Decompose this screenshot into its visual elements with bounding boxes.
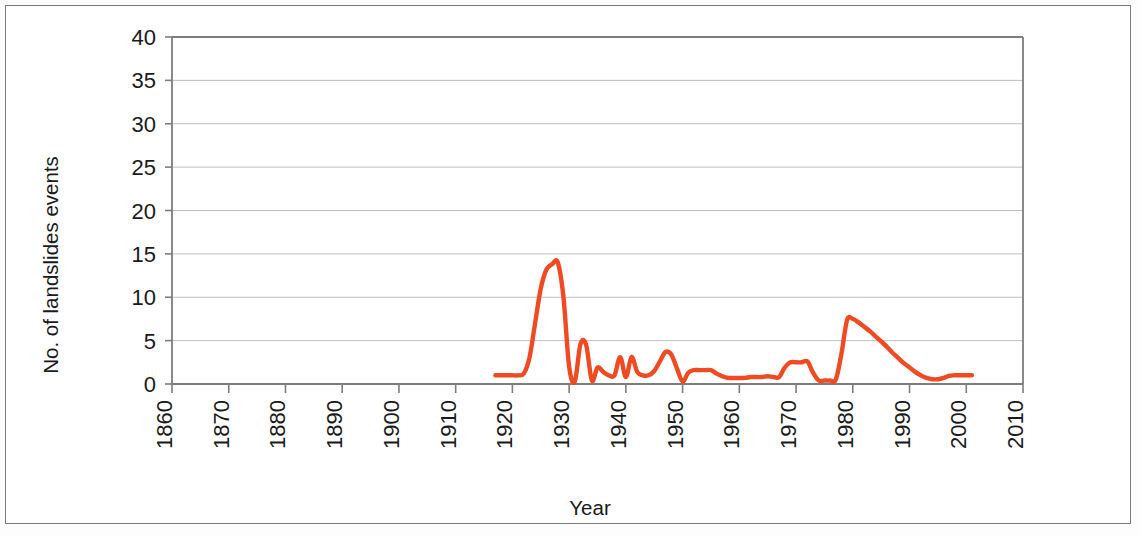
x-tick-label-1890: 1890	[322, 400, 347, 449]
x-axis-title: Year	[569, 496, 611, 519]
x-tick-label-1880: 1880	[265, 400, 290, 449]
x-tick-label-1950: 1950	[663, 400, 688, 449]
x-tick-label-1970: 1970	[776, 400, 801, 449]
y-tick-label-40: 40	[132, 25, 156, 50]
y-tick-label-0: 0	[144, 372, 156, 397]
figure-canvas: 0510152025303540 18601870188018901900191…	[0, 0, 1140, 537]
x-tick-label-1990: 1990	[890, 400, 915, 449]
x-tick-marks-group	[172, 384, 1023, 393]
x-tick-label-1870: 1870	[209, 400, 234, 449]
x-tick-label-1930: 1930	[549, 400, 574, 449]
x-tick-label-1900: 1900	[379, 400, 404, 449]
x-tick-labels-group: 1860187018801890190019101920193019401950…	[152, 400, 1028, 449]
x-tick-label-2000: 2000	[946, 400, 971, 449]
x-tick-label-1920: 1920	[492, 400, 517, 449]
y-tick-label-20: 20	[132, 199, 156, 224]
y-tick-label-5: 5	[144, 329, 156, 354]
x-tick-label-1940: 1940	[606, 400, 631, 449]
x-tick-label-1960: 1960	[719, 400, 744, 449]
x-tick-label-1860: 1860	[152, 400, 177, 449]
y-tick-label-30: 30	[132, 112, 156, 137]
y-tick-label-25: 25	[132, 155, 156, 180]
y-tick-label-35: 35	[132, 68, 156, 93]
y-tick-label-10: 10	[132, 285, 156, 310]
x-tick-label-1910: 1910	[436, 400, 461, 449]
y-tick-marks-group	[165, 37, 172, 384]
landslides-events-line-chart: 0510152025303540 18601870188018901900191…	[0, 0, 1140, 537]
y-axis-title: No. of landslides events	[39, 156, 62, 374]
x-tick-label-2010: 2010	[1003, 400, 1028, 449]
y-tick-labels-group: 0510152025303540	[132, 25, 156, 397]
y-tick-label-15: 15	[132, 242, 156, 267]
x-tick-label-1980: 1980	[833, 400, 858, 449]
